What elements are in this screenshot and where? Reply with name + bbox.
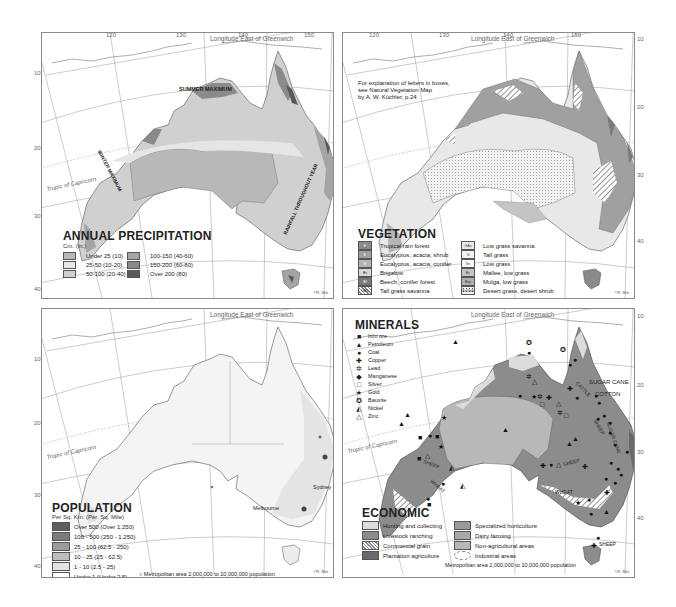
legend-row: Over 500 (Over 1,250) (52, 522, 134, 531)
legend-row: Over 200 (80) (127, 269, 187, 278)
legend-swatch: Bs (358, 268, 372, 277)
coal-icon: ● (604, 475, 608, 482)
coal-icon: ● (597, 399, 601, 406)
legend-row: ▲Petroleum (355, 340, 393, 348)
lat-tick-20: 20 (637, 382, 644, 388)
lead-icon: ✲ (526, 373, 532, 380)
legend-row: ◭Nickel (355, 404, 383, 412)
coal-icon: ● (573, 356, 577, 363)
gold-icon: ★ (575, 499, 581, 506)
coal-icon: ● (587, 496, 591, 503)
credit: ©R. Mitt. (313, 569, 329, 574)
coal-icon: ● (428, 432, 432, 439)
legend-row: 25-50 (10-20) (63, 260, 122, 269)
lead-icon: ✲ (537, 393, 543, 400)
legend-row: GTall grass (461, 250, 508, 259)
lat-tick-30: 30 (637, 449, 644, 455)
economic-legend-title: ECONOMIC (362, 506, 430, 520)
population-legend-title: POPULATION (52, 501, 132, 515)
sugar-cane-label: SUGAR CANE (589, 379, 629, 385)
iron-ore-icon: ■ (435, 433, 439, 440)
legend-row: △Zinc (355, 412, 378, 420)
legend-row: EEucalyptus, acacia, conifer (358, 259, 451, 268)
wheat-label-east: WHEAT (555, 489, 573, 495)
gold-icon: ★ (438, 443, 444, 450)
silver-icon: □ (564, 412, 568, 419)
lat-tick-20: 20 (34, 145, 41, 151)
legend-row: 1 - 10 (2.5 - 25) (52, 562, 115, 571)
petroleum-icon: ▲ (566, 440, 573, 447)
bauxite-icon: ✪ (355, 397, 363, 404)
legend-row: Commercial grain (362, 541, 430, 550)
longitude-title: Longitude East of Greenwich (210, 35, 293, 42)
petroleum-icon: ▲ (502, 426, 509, 433)
legend-row: BsMallee, low grass (461, 268, 529, 277)
coal-icon: ● (619, 471, 623, 478)
legend-swatch: E (358, 241, 372, 250)
city-label-sydney: Sydney (313, 484, 331, 490)
legend-row: ETropical rain forest (358, 241, 429, 250)
legend-swatch (362, 531, 379, 540)
lat-tick-20: 20 (34, 420, 41, 426)
precipitation-legend-title: ANNUAL PRECIPITATION (63, 229, 212, 243)
sheep-label-tasmania: SHEEP (599, 541, 616, 547)
legend-swatch (454, 531, 471, 540)
summer-maximum-label: SUMMER MAXIMUM (179, 86, 232, 92)
petroleum-icon: ▲ (572, 435, 579, 442)
legend-swatch: Bf (358, 277, 372, 286)
lat-tick-10: 10 (34, 356, 41, 362)
vegetation-note: For explanation of letters in boxes, see… (358, 80, 450, 101)
nickel-icon: ◭ (355, 405, 363, 412)
legend-row: GAsLow grass savanna (461, 241, 535, 250)
legend-row: ■Iron ore (355, 332, 387, 340)
legend-swatch: Bsp (461, 277, 475, 286)
credit: ©R. Mitt. (313, 290, 329, 295)
legend-swatch (52, 542, 70, 551)
legend-row: ◆Manganese (355, 372, 397, 380)
precipitation-map-panel: Longitude East of Greenwich 120 130 140 … (41, 32, 334, 299)
vegetation-map-panel: Longitude East of Greenwich 120 130 140 … (342, 32, 635, 299)
iron-ore-icon: ■ (355, 333, 363, 340)
petroleum-icon: ▲ (404, 411, 411, 418)
legend-swatch (362, 541, 379, 550)
legend-row: BfBeech, conifer forest (358, 277, 435, 286)
lon-tick-120: 120 (106, 32, 116, 38)
lat-tick-30: 30 (637, 172, 644, 178)
coal-icon: ● (518, 392, 522, 399)
legend-swatch (52, 552, 70, 561)
legend-row: 25 - 100 (62.5 - 250) (52, 542, 129, 551)
petroleum-icon: ▲ (398, 420, 405, 427)
legend-row: 100-150 (40-60) (127, 251, 193, 260)
legend-swatch (63, 270, 76, 278)
lon-tick-140: 140 (238, 32, 248, 38)
coal-icon: ● (613, 479, 617, 486)
legend-row: Industrial areas (454, 551, 516, 560)
coal-icon: ● (609, 459, 613, 466)
coal-icon: ● (549, 461, 553, 468)
legend-row: Under 25 (10) (63, 251, 123, 260)
lat-tick-40: 40 (637, 515, 644, 521)
legend-row: Under 1 (Under 2.5) (52, 572, 127, 578)
lat-tick-10: 10 (637, 313, 644, 319)
lat-tick-40: 40 (34, 286, 41, 292)
legend-swatch (127, 261, 140, 269)
lon-tick-140: 140 (503, 32, 513, 38)
petroleum-icon: ▲ (603, 508, 610, 515)
copper-icon: ✚ (546, 394, 552, 401)
copper-icon: ✚ (604, 489, 610, 496)
cotton-label: COTTON (595, 391, 620, 397)
legend-row: ✪Bauxite (355, 396, 386, 404)
city-label-melbourne: Melbourne (253, 505, 279, 511)
silver-icon: □ (540, 401, 544, 408)
nickel-icon: ◭ (449, 464, 454, 471)
lat-tick-30: 30 (34, 492, 41, 498)
legend-row: Ks/GsbDesert grass, desert shrub (461, 286, 554, 295)
legend-swatch: Ks/Gsb (461, 286, 475, 295)
longitude-title: Longitude East of Greenwich (210, 311, 293, 318)
legend-swatch: E (358, 250, 372, 259)
copper-icon: ✚ (540, 462, 546, 469)
legend-swatch (63, 261, 76, 269)
population-map-panel: Longitude East of Greenwich Tropic of Ca… (41, 308, 334, 578)
legend-swatch (454, 521, 471, 530)
copper-icon: ✚ (567, 385, 573, 392)
